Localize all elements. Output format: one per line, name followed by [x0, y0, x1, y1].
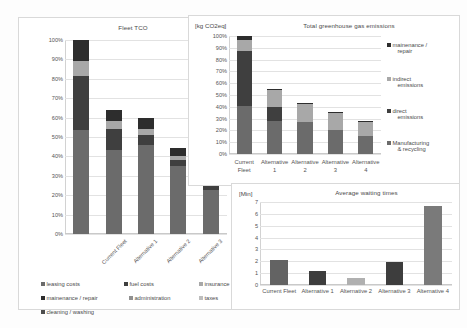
x-label-waiting: Current Fleet [260, 288, 298, 294]
waiting-ytick: 6 [255, 211, 258, 217]
ghg-ytick: 10% [216, 139, 227, 145]
waiting-ytick: 7 [255, 199, 258, 205]
legend-item-ghg[interactable]: indirectemissions [387, 76, 423, 88]
fleet-tco-segment [106, 121, 122, 130]
legend-item-fleet-tco[interactable]: taxes [199, 295, 218, 301]
ghg-ytick: 30% [216, 116, 227, 122]
waiting-bar[interactable] [347, 278, 365, 285]
ghg-segment [237, 36, 252, 40]
legend-item-ghg[interactable]: Manufacturing& recycling [387, 140, 429, 152]
legend-item-fleet-tco[interactable]: administration [129, 295, 170, 301]
ghg-gridline [229, 36, 381, 37]
waiting-bar[interactable] [309, 271, 327, 285]
legend-item-fleet-tco[interactable]: mainenance / repair [41, 295, 98, 301]
legend-label-line: & recycling [392, 146, 429, 152]
unit-label-waiting: [Min] [239, 190, 252, 197]
waiting-ytick: 3 [255, 246, 258, 252]
ghg-segment [328, 113, 343, 130]
x-label-fleet-tco: Alternative 3 [197, 238, 223, 264]
x-label-waiting: Alternative 4 [414, 288, 452, 294]
waiting-bar[interactable] [386, 262, 404, 285]
legend-item-ghg[interactable]: directemissions [387, 108, 423, 120]
fleet-tco-segment [203, 190, 219, 234]
ghg-bar[interactable] [297, 77, 312, 154]
ghg-bar[interactable] [328, 84, 343, 154]
x-label-fleet-tco: Alternative 2 [165, 238, 191, 264]
legend-swatch-icon [387, 43, 391, 47]
ghg-gridline [229, 71, 381, 72]
legend-swatch-icon [387, 141, 391, 145]
fleet-tco-segment [138, 118, 154, 129]
fleet-tco-segment [106, 129, 122, 150]
fleet-tco-bar[interactable] [73, 40, 89, 234]
fleet-tco-bar[interactable] [170, 105, 186, 234]
ghg-bar[interactable] [267, 67, 282, 154]
fleet-tco-segment [170, 160, 186, 166]
fleet-tco-segment [138, 145, 154, 234]
x-label-ghg: Alternative4 [351, 158, 381, 175]
fleet-tco-ytick: 10% [52, 212, 63, 218]
legend-item-fleet-tco[interactable]: insurance [199, 281, 230, 287]
waiting-bar[interactable] [424, 206, 442, 285]
fleet-tco-segment [106, 110, 122, 121]
fleet-tco-ytick: 0% [55, 231, 63, 237]
fleet-tco-ytick: 100% [49, 37, 63, 43]
fleet-tco-segment [170, 156, 186, 161]
legend-item-ghg[interactable]: mainenance /repair [387, 42, 427, 54]
fleet-tco-bar[interactable] [106, 79, 122, 234]
ghg-ytick: 50% [216, 92, 227, 98]
ghg-segment [237, 106, 252, 154]
fleet-tco-segment [73, 61, 89, 76]
fleet-tco-segment [73, 40, 89, 61]
ghg-bar[interactable] [237, 36, 252, 154]
fleet-tco-gridline [65, 234, 227, 235]
chart-title-waiting: Average waiting times [282, 189, 451, 196]
legend-swatch-icon [387, 109, 391, 113]
plot-area-waiting: 76543210 [260, 202, 452, 285]
fleet-tco-segment [170, 166, 186, 234]
waiting-ytick: 5 [255, 223, 258, 229]
fleet-tco-bar[interactable] [138, 84, 154, 234]
legend-item-fleet-tco[interactable]: cleaning / washing [41, 309, 94, 315]
x-label-line: Current [229, 158, 259, 166]
fleet-tco-segment [138, 129, 154, 135]
fleet-tco-segment [73, 130, 89, 234]
x-label-line: 4 [351, 166, 381, 174]
ghg-gridline [229, 154, 381, 155]
legend-label: directemissions [392, 108, 423, 120]
fleet-tco-ytick: 20% [52, 192, 63, 198]
fleet-tco-ytick: 60% [52, 115, 63, 121]
waiting-ytick: 0 [255, 282, 258, 288]
x-label-ghg: Alternative2 [290, 158, 320, 175]
fleet-tco-ytick: 80% [52, 76, 63, 82]
x-label-line: 2 [290, 166, 320, 174]
ghg-segment [358, 121, 373, 136]
ghg-ytick: 60% [216, 80, 227, 86]
ghg-segment [297, 122, 312, 154]
fleet-tco-segment [73, 76, 89, 130]
fleet-tco-ytick: 70% [52, 95, 63, 101]
ghg-ytick: 70% [216, 68, 227, 74]
waiting-bar[interactable] [270, 260, 288, 285]
chart-panel-average-waiting-times: [Min] Average waiting times 76543210 Cur… [231, 183, 460, 310]
ghg-segment [237, 40, 252, 51]
fleet-tco-segment [138, 135, 154, 145]
legend-label-line: emissions [392, 82, 423, 88]
waiting-ytick: 4 [255, 235, 258, 241]
legend-swatch-icon [129, 296, 133, 300]
legend-label: cleaning / washing [46, 309, 94, 315]
legend-swatch-icon [387, 77, 391, 81]
legend-label: fuel costs [129, 281, 154, 287]
legend-label: indirectemissions [392, 76, 423, 88]
legend-swatch-icon [199, 282, 203, 286]
x-label-waiting: Alternative 1 [298, 288, 336, 294]
legend-label-line: emissions [392, 114, 423, 120]
chart-title-ghg: Total greenhouse gas emissions [249, 22, 449, 29]
legend-item-fleet-tco[interactable]: leasing costs [41, 281, 80, 287]
waiting-ytick: 1 [255, 270, 258, 276]
waiting-gridline [260, 285, 452, 286]
ghg-bar[interactable] [358, 91, 373, 154]
legend-label: administration [134, 295, 170, 301]
legend-label-line: repair [392, 48, 427, 54]
legend-item-fleet-tco[interactable]: fuel costs [124, 281, 154, 287]
